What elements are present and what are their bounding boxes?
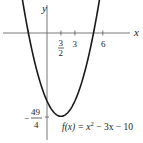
function-graph: x y 3 2 3 6 − 49 4 f(x) = x2 − 3x − 10	[0, 0, 143, 143]
x-tick-label-6: 6	[101, 39, 106, 49]
function-label-lhs: f(x) = x	[62, 122, 91, 133]
y-tick-label-num: 49	[31, 107, 41, 117]
x-tick-label-3: 3	[73, 39, 78, 49]
x-axis-label: x	[133, 26, 139, 38]
function-label: f(x) = x2 − 3x − 10	[62, 120, 133, 133]
function-label-rhs: − 3x − 10	[94, 122, 133, 132]
y-tick-label-sign: −	[24, 113, 29, 123]
y-axis-label: y	[41, 2, 47, 14]
x-tick-label-3-over-2-num: 3	[59, 38, 64, 48]
x-tick-label-3-over-2-den: 2	[59, 48, 64, 58]
parabola-curve	[14, 0, 107, 116]
plot-area: x y 3 2 3 6 − 49 4 f(x) = x2 − 3x − 10	[0, 0, 143, 143]
y-tick-label-den: 4	[34, 120, 39, 130]
